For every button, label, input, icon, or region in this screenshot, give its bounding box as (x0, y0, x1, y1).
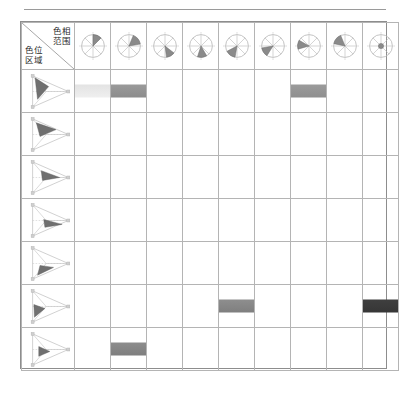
matrix-cell-r6-c6[interactable] (255, 285, 291, 328)
matrix-cell-r1-c4[interactable] (183, 70, 219, 113)
matrix-cell-r6-c4[interactable] (183, 285, 219, 328)
matrix-cell-r2-c4[interactable] (183, 113, 219, 156)
matrix-cell-r6-c7[interactable] (291, 285, 327, 328)
corner-inner: 色相 范围 色位 区域 (22, 23, 74, 69)
matrix-cell-r1-c1[interactable] (75, 70, 111, 113)
matrix-cell-r4-c4[interactable] (183, 199, 219, 242)
matrix-cell-r2-c3[interactable] (147, 113, 183, 156)
color-position-header-1 (22, 70, 75, 113)
row-axis-label-line2: 区域 (25, 56, 43, 66)
value-bar (363, 300, 398, 313)
matrix-cell-r1-c8[interactable] (327, 70, 363, 113)
hue-range-header-7 (291, 23, 327, 70)
matrix-cell-r1-c9[interactable] (363, 70, 399, 113)
gamut-triangle-icon (22, 287, 74, 325)
matrix-header-row: 色相 范围 色位 区域 (22, 23, 399, 70)
matrix-cell-r3-c4[interactable] (183, 156, 219, 199)
matrix-cell-r5-c4[interactable] (183, 242, 219, 285)
matrix-cell-r1-c2[interactable] (111, 70, 147, 113)
matrix-cell-r6-c8[interactable] (327, 285, 363, 328)
matrix-cell-r7-c7[interactable] (291, 328, 327, 371)
matrix-cell-r6-c3[interactable] (147, 285, 183, 328)
matrix-cell-r6-c2[interactable] (111, 285, 147, 328)
matrix-cell-r7-c2[interactable] (111, 328, 147, 371)
color-position-header-6 (22, 285, 75, 328)
hue-wheel-icon (255, 30, 290, 62)
matrix-cell-r4-c2[interactable] (111, 199, 147, 242)
matrix-cell-r7-c1[interactable] (75, 328, 111, 371)
color-position-header-4 (22, 199, 75, 242)
matrix-cell-r4-c7[interactable] (291, 199, 327, 242)
column-axis-label-line2: 范围 (53, 37, 71, 47)
matrix-row (22, 242, 399, 285)
matrix-row (22, 70, 399, 113)
matrix-cell-r7-c5[interactable] (219, 328, 255, 371)
matrix-cell-r2-c8[interactable] (327, 113, 363, 156)
matrix-cell-r4-c5[interactable] (219, 199, 255, 242)
matrix-cell-r7-c9[interactable] (363, 328, 399, 371)
value-bar (111, 343, 146, 356)
matrix-cell-r5-c6[interactable] (255, 242, 291, 285)
matrix-cell-r6-c5[interactable] (219, 285, 255, 328)
matrix-cell-r1-c6[interactable] (255, 70, 291, 113)
matrix-cell-r5-c8[interactable] (327, 242, 363, 285)
matrix-cell-r4-c9[interactable] (363, 199, 399, 242)
matrix-cell-r3-c5[interactable] (219, 156, 255, 199)
matrix-cell-r5-c3[interactable] (147, 242, 183, 285)
matrix-cell-r3-c8[interactable] (327, 156, 363, 199)
value-bar (111, 85, 146, 98)
row-axis-label: 色位 区域 (25, 46, 43, 65)
matrix-cell-r5-c2[interactable] (111, 242, 147, 285)
matrix-cell-r1-c3[interactable] (147, 70, 183, 113)
hue-range-header-5 (219, 23, 255, 70)
matrix-cell-r7-c3[interactable] (147, 328, 183, 371)
value-bar (75, 85, 110, 98)
matrix-cell-r4-c6[interactable] (255, 199, 291, 242)
matrix-cell-r3-c3[interactable] (147, 156, 183, 199)
gamut-triangle-icon (22, 244, 74, 282)
matrix-cell-r3-c9[interactable] (363, 156, 399, 199)
hue-wheel-icon (291, 30, 326, 62)
matrix-cell-r2-c5[interactable] (219, 113, 255, 156)
matrix-cell-r7-c4[interactable] (183, 328, 219, 371)
matrix-cell-r7-c6[interactable] (255, 328, 291, 371)
hue-wheel-icon (363, 30, 398, 62)
matrix-cell-r4-c3[interactable] (147, 199, 183, 242)
matrix-cell-r5-c7[interactable] (291, 242, 327, 285)
matrix-cell-r3-c7[interactable] (291, 156, 327, 199)
matrix-cell-r5-c5[interactable] (219, 242, 255, 285)
gamut-triangle-icon (22, 158, 74, 196)
hue-wheel-icon (75, 30, 110, 62)
matrix-cell-r4-c8[interactable] (327, 199, 363, 242)
matrix-cell-r5-c1[interactable] (75, 242, 111, 285)
matrix-row (22, 113, 399, 156)
matrix-body: 色相 范围 色位 区域 (22, 23, 399, 371)
color-position-header-5 (22, 242, 75, 285)
hue-range-header-2 (111, 23, 147, 70)
axis-corner-header: 色相 范围 色位 区域 (22, 23, 75, 70)
matrix-cell-r4-c1[interactable] (75, 199, 111, 242)
matrix-cell-r5-c9[interactable] (363, 242, 399, 285)
value-bar (219, 300, 254, 313)
matrix-cell-r2-c7[interactable] (291, 113, 327, 156)
matrix-row (22, 328, 399, 371)
gamut-triangle-icon (22, 330, 74, 368)
hue-range-header-8 (327, 23, 363, 70)
color-position-header-7 (22, 328, 75, 371)
matrix-cell-r6-c1[interactable] (75, 285, 111, 328)
matrix-cell-r2-c6[interactable] (255, 113, 291, 156)
matrix-cell-r2-c1[interactable] (75, 113, 111, 156)
matrix-cell-r3-c1[interactable] (75, 156, 111, 199)
matrix-cell-r3-c6[interactable] (255, 156, 291, 199)
matrix-cell-r3-c2[interactable] (111, 156, 147, 199)
matrix-cell-r2-c2[interactable] (111, 113, 147, 156)
column-axis-label: 色相 范围 (53, 27, 71, 46)
matrix-row (22, 285, 399, 328)
matrix-row (22, 156, 399, 199)
matrix-cell-r6-c9[interactable] (363, 285, 399, 328)
matrix-cell-r1-c5[interactable] (219, 70, 255, 113)
matrix-cell-r2-c9[interactable] (363, 113, 399, 156)
matrix-cell-r1-c7[interactable] (291, 70, 327, 113)
matrix-cell-r7-c8[interactable] (327, 328, 363, 371)
gamut-triangle-icon (22, 201, 74, 239)
